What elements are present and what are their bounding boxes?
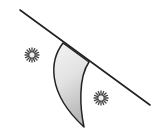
star-icon (94, 91, 108, 105)
diagram-canvas: Diagonal line with a curved horn/crescen… (0, 0, 159, 139)
diagonal-line (20, 10, 150, 105)
star-icon (25, 48, 39, 62)
diagram-svg (0, 0, 159, 139)
